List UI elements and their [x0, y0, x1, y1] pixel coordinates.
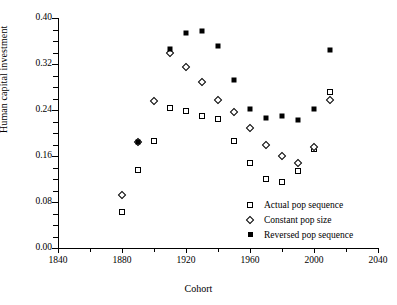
data-point-reversed-pop-sequence: [200, 29, 205, 34]
y-tick-label: 0.40: [35, 13, 52, 23]
data-point-reversed-pop-sequence: [328, 48, 333, 53]
data-point-reversed-pop-sequence: [216, 43, 221, 48]
data-point-reversed-pop-sequence: [296, 117, 301, 122]
data-point-constant-pop-size: [278, 152, 286, 160]
data-point-actual-pop-sequence: [215, 116, 221, 122]
data-point-actual-pop-sequence: [135, 167, 141, 173]
x-tick-label: 1920: [177, 256, 196, 266]
data-point-reversed-pop-sequence: [184, 30, 189, 35]
data-point-constant-pop-size: [326, 95, 334, 103]
data-point-reversed-pop-sequence: [280, 114, 285, 119]
y-tick-label: 0.32: [35, 59, 52, 69]
y-tick-label: 0.00: [35, 243, 52, 253]
data-point-constant-pop-size: [214, 95, 222, 103]
data-point-constant-pop-size: [198, 78, 206, 86]
data-point-constant-pop-size: [294, 159, 302, 167]
y-tick-label: 0.08: [35, 197, 52, 207]
x-tick-label: 1880: [113, 256, 132, 266]
data-point-actual-pop-sequence: [247, 160, 253, 166]
data-point-constant-pop-size: [262, 140, 270, 148]
data-point-constant-pop-size: [230, 108, 238, 116]
data-point-reversed-pop-sequence: [232, 78, 237, 83]
data-point-actual-pop-sequence: [151, 138, 157, 144]
figure: 0.000.080.160.240.320.40 184018801920196…: [0, 0, 397, 305]
legend-label: Reversed pop sequence: [264, 230, 353, 240]
data-point-actual-pop-sequence: [327, 89, 333, 95]
legend-item-constant-pop-size: Constant pop size: [243, 212, 353, 227]
data-point-actual-pop-sequence: [119, 209, 125, 215]
x-tick-label: 2040: [369, 256, 388, 266]
x-axis-title: Cohort: [0, 283, 397, 294]
y-tick-label: 0.16: [35, 151, 52, 161]
x-axis-line: [58, 248, 378, 249]
legend-item-actual-pop-sequence: Actual pop sequence: [243, 197, 353, 212]
data-point-constant-pop-size: [150, 97, 158, 105]
x-tick-major: [378, 248, 379, 253]
data-point-reversed-pop-sequence: [312, 106, 317, 111]
filled-square-icon: [243, 232, 257, 237]
data-point-reversed-pop-sequence: [264, 116, 269, 121]
data-point-reversed-pop-sequence: [136, 140, 141, 145]
legend-item-reversed-pop-sequence: Reversed pop sequence: [243, 227, 353, 242]
x-tick-label: 2000: [305, 256, 324, 266]
data-point-actual-pop-sequence: [167, 105, 173, 111]
data-point-actual-pop-sequence: [279, 179, 285, 185]
data-point-actual-pop-sequence: [199, 113, 205, 119]
y-axis-line: [58, 18, 59, 248]
data-point-constant-pop-size: [118, 191, 126, 199]
y-axis-title: Human capital investment: [0, 0, 9, 133]
legend-label: Constant pop size: [264, 215, 332, 225]
legend-label: Actual pop sequence: [264, 200, 343, 210]
y-tick-label: 0.24: [35, 105, 52, 115]
x-tick-label: 1840: [49, 256, 68, 266]
open-square-icon: [243, 202, 257, 208]
data-point-constant-pop-size: [246, 124, 254, 132]
data-point-reversed-pop-sequence: [168, 47, 173, 52]
x-tick-label: 1960: [241, 256, 260, 266]
legend: Actual pop sequence Constant pop size Re…: [243, 197, 353, 242]
data-point-reversed-pop-sequence: [248, 107, 253, 112]
open-diamond-icon: [243, 217, 257, 223]
data-point-actual-pop-sequence: [263, 176, 269, 182]
data-point-constant-pop-size: [182, 63, 190, 71]
data-point-actual-pop-sequence: [231, 138, 237, 144]
data-point-actual-pop-sequence: [295, 168, 301, 174]
data-point-actual-pop-sequence: [183, 108, 189, 114]
x-axis-tick-labels: 184018801920196020002040: [58, 250, 378, 264]
